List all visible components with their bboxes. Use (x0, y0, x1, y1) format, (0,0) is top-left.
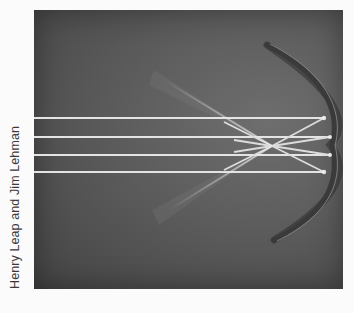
mirror-photograph (34, 10, 343, 289)
incident-rays (34, 118, 330, 172)
figure: Henry Leap and Jim Lehman (0, 0, 354, 313)
photo-credit: Henry Leap and Jim Lehman (8, 109, 22, 289)
ray-diagram (34, 10, 343, 289)
